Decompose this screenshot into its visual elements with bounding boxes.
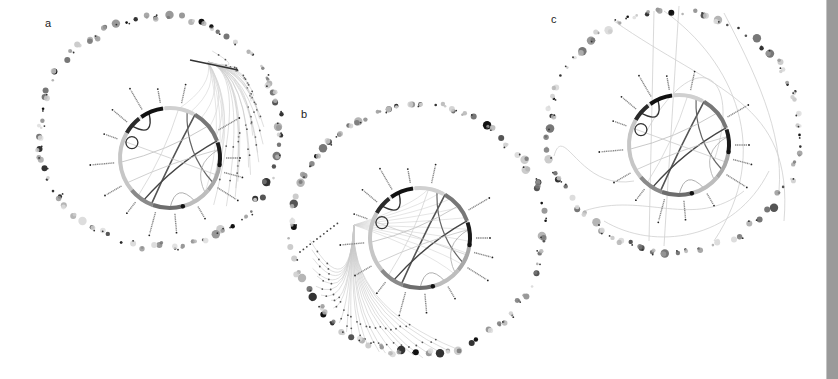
right-edge-highlight bbox=[826, 0, 827, 379]
panel-b bbox=[287, 101, 547, 358]
outer-node-ring bbox=[543, 8, 802, 258]
panel-label-c: c bbox=[551, 13, 557, 25]
panel-c bbox=[543, 6, 802, 258]
panel-label-a: a bbox=[45, 17, 51, 29]
panel-a bbox=[35, 11, 284, 252]
panel-label-b: b bbox=[301, 108, 307, 120]
fan-links bbox=[179, 51, 264, 206]
inner-chord-circle bbox=[89, 84, 243, 237]
right-edge-gray-bar bbox=[826, 0, 838, 379]
figure-canvas bbox=[0, 0, 838, 379]
network-diagram-svg bbox=[0, 0, 838, 379]
outer-node-ring bbox=[287, 101, 547, 357]
